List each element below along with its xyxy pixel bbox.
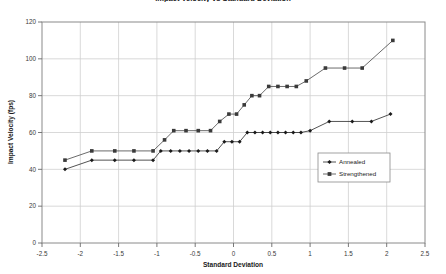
data-point-marker [343,66,347,70]
data-point-marker [169,149,173,153]
chart-container: Impact Velocity vs Standard Deviation 02… [0,0,446,274]
y-axis-ticks: 020406080100120 [25,18,42,246]
data-point-marker [151,149,155,153]
data-point-marker [196,149,200,153]
x-axis-title: Standard Deviation [203,261,263,268]
x-tick-label: 0 [232,250,236,257]
data-point-marker [308,129,312,133]
data-point-marker [327,119,331,123]
data-point-marker [304,79,308,83]
data-point-marker [196,129,200,133]
data-point-marker [267,85,271,89]
y-tick-label: 0 [32,239,36,246]
data-point-marker [328,172,332,176]
y-tick-label: 100 [25,55,36,62]
y-tick-label: 20 [29,202,37,209]
y-tick-label: 80 [29,92,37,99]
data-point-marker [90,149,94,153]
data-point-marker [187,149,191,153]
data-point-marker [258,94,262,98]
data-point-marker [250,94,254,98]
data-point-marker [253,131,257,135]
data-point-marker [276,131,280,135]
gridlines [42,22,425,243]
y-tick-label: 120 [25,18,36,25]
data-point-marker [324,66,328,70]
x-axis-ticks: -2.5-2-1.5-1-0.500.511.522.5 [37,243,430,257]
data-point-marker [113,158,117,162]
data-point-marker [295,85,299,89]
x-tick-label: -2 [77,250,83,257]
legend-label-annealed: Annealed [339,158,366,165]
y-tick-label: 60 [29,129,37,136]
x-tick-label: 0.5 [267,250,276,257]
data-point-marker [261,131,265,135]
data-point-marker [285,85,289,89]
data-point-marker [350,119,354,123]
data-point-marker [163,138,167,142]
x-tick-label: -0.5 [190,250,201,257]
data-point-marker [235,112,239,116]
data-point-marker [276,85,280,89]
data-point-marker [90,158,94,162]
data-point-marker [391,39,395,43]
data-point-marker [218,120,222,124]
data-point-marker [242,103,246,107]
y-axis-title: Impact Velocity (fps) [7,100,15,164]
data-point-marker [291,131,295,135]
x-tick-label: 1 [308,250,312,257]
data-point-marker [299,131,303,135]
data-point-marker [63,167,67,171]
series-line [65,40,393,160]
data-point-marker [113,149,117,153]
data-point-marker [132,149,136,153]
data-point-marker [132,158,136,162]
x-tick-label: -2.5 [37,250,48,257]
data-point-marker [389,112,393,116]
chart-legend: AnnealedStrengthened [318,153,390,182]
data-point-marker [209,129,213,133]
data-point-marker [172,129,176,133]
data-point-marker [284,131,288,135]
data-series-strengthened [63,39,394,162]
data-point-marker [360,66,364,70]
data-point-marker [178,149,182,153]
data-point-marker [205,149,209,153]
legend-label-strengthened: Strengthened [339,170,377,177]
chart-plot-svg: 020406080100120 -2.5-2-1.5-1-0.500.511.5… [0,0,446,274]
x-tick-label: 2 [385,250,389,257]
data-point-marker [369,119,373,123]
x-tick-label: 1.5 [344,250,353,257]
x-tick-label: -1.5 [113,250,124,257]
data-point-marker [63,158,67,162]
data-point-marker [184,129,188,133]
data-point-marker [227,112,231,116]
y-tick-label: 40 [29,166,37,173]
x-tick-label: -1 [154,250,160,257]
x-tick-label: 2.5 [421,250,430,257]
